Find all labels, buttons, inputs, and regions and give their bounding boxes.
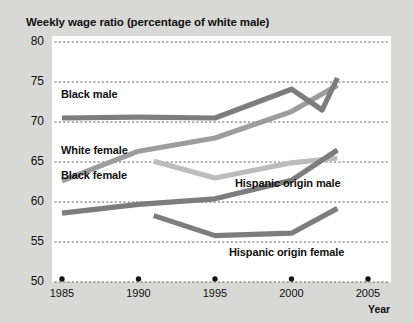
series-label-black-female: Black female <box>61 169 127 181</box>
x-tick-label-1995: 1995 <box>195 287 235 299</box>
tick-dot-2005 <box>365 276 370 281</box>
x-axis-title: Year <box>368 303 390 315</box>
tick-dot-1985 <box>59 276 64 281</box>
chart-figure: Weekly wage ratio (percentage of white m… <box>0 0 414 323</box>
y-tick-label-80: 80 <box>18 34 44 48</box>
y-tick-label-65: 65 <box>18 154 44 168</box>
x-tick-label-2005: 2005 <box>348 287 388 299</box>
y-tick-label-70: 70 <box>18 114 44 128</box>
x-tick-label-2000: 2000 <box>272 287 312 299</box>
series-label-hispanic-origin-male: Hispanic origin male <box>235 177 341 189</box>
y-tick-label-75: 75 <box>18 74 44 88</box>
y-tick-label-60: 60 <box>18 194 44 208</box>
chart-plot-area <box>0 0 414 323</box>
series-label-white-female: White female <box>61 144 128 156</box>
tick-dot-1990 <box>136 276 141 281</box>
tick-dot-1995 <box>212 276 217 281</box>
series-label-black-male: Black male <box>61 88 117 100</box>
series-label-hispanic-origin-female: Hispanic origin female <box>229 246 344 258</box>
x-tick-label-1985: 1985 <box>42 287 82 299</box>
y-tick-label-50: 50 <box>18 274 44 288</box>
y-tick-label-55: 55 <box>18 234 44 248</box>
x-tick-label-1990: 1990 <box>119 287 159 299</box>
tick-dot-2000 <box>289 276 294 281</box>
